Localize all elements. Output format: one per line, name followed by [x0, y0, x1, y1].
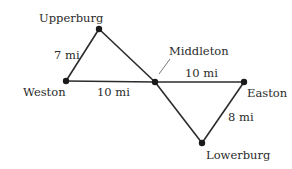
- town-label-lowerburg: Lowerburg: [206, 148, 271, 162]
- road-upperburg-middleton: [99, 29, 155, 82]
- road-middleton-lowerburg: [155, 82, 202, 143]
- town-label-middleton: Middleton: [169, 44, 229, 58]
- distance-label-middleton-easton: 10 mi: [185, 66, 218, 80]
- distance-label-lowerburg-easton: 8 mi: [228, 110, 254, 124]
- middleton-leader-line: [159, 59, 170, 74]
- town-node-weston: [63, 78, 69, 84]
- town-node-middleton: [152, 79, 158, 85]
- distance-label-weston-middleton: 10 mi: [97, 85, 130, 99]
- town-label-weston: Weston: [23, 85, 66, 99]
- town-label-upperburg: Upperburg: [39, 11, 104, 25]
- town-label-easton: Easton: [247, 86, 288, 100]
- town-node-upperburg: [96, 26, 102, 32]
- town-node-lowerburg: [199, 140, 205, 146]
- town-node-easton: [241, 79, 247, 85]
- town-road-map: Upperburg Weston Middleton Easton Lowerb…: [0, 0, 292, 169]
- road-weston-middleton: [66, 81, 155, 82]
- distance-label-weston-upperburg: 7 mi: [54, 48, 80, 62]
